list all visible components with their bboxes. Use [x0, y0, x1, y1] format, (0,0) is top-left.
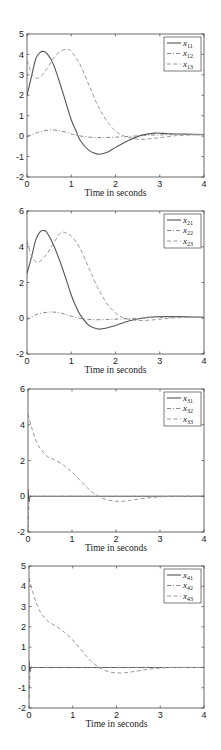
x-tick-label: 3 [157, 534, 162, 544]
y-tick-label: 2 [19, 278, 24, 288]
x-tick-label: 0 [24, 356, 29, 366]
y-tick-label: 6 [20, 384, 25, 394]
y-tick-label: -1 [16, 152, 24, 162]
figure: 01234-2-1012345Time in secondsx11x12x130… [0, 0, 221, 750]
x-tick-label: 3 [158, 710, 163, 720]
y-tick-label: 2 [19, 90, 24, 100]
x-tick-label: 0 [26, 710, 31, 720]
legend: x21x22x23 [164, 214, 201, 248]
y-tick-label: 5 [21, 561, 26, 571]
x-tick-label: 4 [201, 710, 206, 720]
series-x33 [28, 414, 204, 501]
series-x32 [28, 496, 204, 529]
y-tick-label: -2 [16, 172, 24, 182]
x-tick-label: 0 [25, 534, 30, 544]
y-tick-label: 0 [19, 313, 24, 323]
y-tick-label: 0 [20, 491, 25, 501]
y-tick-label: 5 [19, 29, 24, 39]
y-tick-label: -2 [18, 703, 26, 713]
y-tick-label: 4 [20, 420, 25, 430]
series-x41 [29, 661, 204, 671]
y-tick-label: 1 [19, 111, 24, 121]
x-tick-label: 3 [157, 179, 162, 189]
subplot-4: 01234-2-1012345Time in secondsx41x42x43 [18, 561, 207, 729]
subplot-3: 01234-20246Time in secondsx31x32x33 [17, 384, 207, 553]
y-tick-label: 4 [21, 581, 26, 591]
x-axis-label: Time in seconds [85, 188, 147, 198]
subplot-1: 01234-2-1012345Time in secondsx11x12x13 [16, 29, 207, 198]
x-tick-label: 4 [201, 179, 206, 189]
y-tick-label: 3 [19, 70, 24, 80]
series-x31 [28, 489, 204, 502]
y-tick-label: -2 [16, 349, 24, 359]
x-tick-label: 4 [201, 356, 206, 366]
y-tick-label: 1 [21, 642, 26, 652]
x-axis-label: Time in seconds [85, 543, 147, 553]
legend: x11x12x13 [164, 37, 201, 71]
y-tick-label: 0 [19, 131, 24, 141]
series-group [28, 414, 204, 528]
x-tick-label: 3 [157, 356, 162, 366]
x-tick-label: 1 [70, 710, 75, 720]
y-tick-label: -1 [18, 683, 26, 693]
y-tick-label: 0 [21, 663, 26, 673]
y-tick-label: -2 [17, 527, 25, 537]
series-x42 [29, 667, 204, 698]
y-tick-label: 6 [19, 206, 24, 216]
x-tick-label: 1 [69, 534, 74, 544]
legend: x41x42x43 [164, 569, 201, 603]
y-tick-label: 3 [21, 602, 26, 612]
x-axis-label: Time in seconds [85, 365, 147, 375]
x-tick-label: 1 [69, 179, 74, 189]
legend: x31x32x33 [164, 392, 201, 426]
y-tick-label: 2 [20, 456, 25, 466]
y-tick-label: 4 [19, 50, 24, 60]
x-tick-label: 0 [24, 179, 29, 189]
x-tick-label: 1 [69, 356, 74, 366]
y-tick-label: 2 [21, 622, 26, 632]
subplot-2: 01234-20246Time in secondsx21x22x23 [16, 206, 207, 375]
y-tick-label: 4 [19, 242, 24, 252]
x-tick-label: 4 [201, 534, 206, 544]
x-axis-label: Time in seconds [86, 719, 148, 729]
